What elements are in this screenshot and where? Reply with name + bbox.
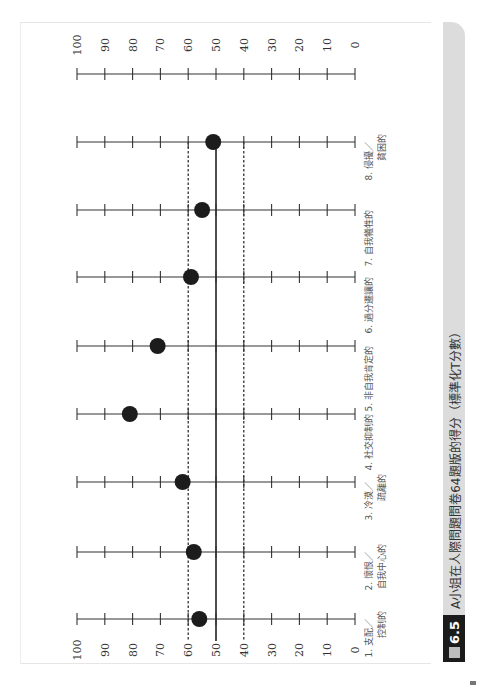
tick-label-bottom: 50	[210, 643, 223, 657]
tick-label-top: 20	[293, 38, 306, 52]
category-label: 8. 侵擾／	[363, 142, 374, 180]
data-point-8	[205, 134, 221, 150]
tick-label-bottom: 10	[321, 643, 334, 657]
data-point-7	[194, 202, 210, 218]
category-label: 1. 支配／	[363, 619, 374, 657]
tick-label-bottom: 90	[99, 643, 112, 657]
category-label: 自我中心的	[376, 544, 387, 589]
tick-label-bottom: 60	[182, 643, 195, 657]
tick-label-top: 80	[127, 38, 140, 52]
category-label: 疏離的	[376, 474, 387, 501]
tick-label-top: 60	[182, 38, 195, 52]
data-point-5	[150, 338, 166, 354]
category-label: 6. 過分遷讓的	[363, 277, 374, 333]
tick-label-top: 0	[349, 42, 362, 49]
tick-label-top: 30	[266, 38, 279, 52]
figure-badge: 6.5	[443, 615, 465, 662]
category-label: 貧困的	[376, 134, 387, 161]
tick-label-top: 40	[238, 38, 251, 52]
category-label: 5. 非自我肯定的	[363, 346, 374, 411]
data-point-1	[191, 611, 207, 627]
category-label: 3. 冷漠／	[363, 482, 374, 520]
tick-label-bottom: 70	[154, 643, 167, 657]
data-point-4	[122, 406, 138, 422]
tick-label-bottom: 100	[71, 640, 84, 661]
chart-plot: 1009080706050403020100100908070605040302…	[0, 0, 483, 692]
page-number-mark	[470, 681, 476, 685]
tick-label-bottom: 20	[293, 643, 306, 657]
category-label: 控制的	[376, 611, 387, 638]
tick-label-top: 50	[210, 38, 223, 52]
tick-label-top: 10	[321, 38, 334, 52]
data-point-6	[183, 269, 199, 285]
tick-label-bottom: 80	[127, 643, 140, 657]
figure-number: 6.5	[447, 621, 462, 644]
caption-text: A小姐在人際問題問卷64題版的得分（標準化T分數）	[446, 326, 463, 615]
category-label: 2. 懷恨／	[363, 552, 374, 590]
figure-caption: 6.5 A小姐在人際問題問卷64題版的得分（標準化T分數）	[443, 22, 465, 662]
category-label: 4. 社交抑制的	[363, 414, 374, 470]
tick-label-top: 70	[154, 38, 167, 52]
tick-label-bottom: 30	[266, 643, 279, 657]
tick-label-bottom: 0	[349, 647, 362, 654]
figure-box-icon	[449, 647, 460, 658]
tick-label-top: 90	[99, 38, 112, 52]
tick-label-top: 100	[71, 35, 84, 56]
category-label: 7. 自我犧牲的	[363, 210, 374, 266]
tick-label-bottom: 40	[238, 643, 251, 657]
data-point-2	[186, 544, 202, 560]
data-point-3	[175, 474, 191, 490]
